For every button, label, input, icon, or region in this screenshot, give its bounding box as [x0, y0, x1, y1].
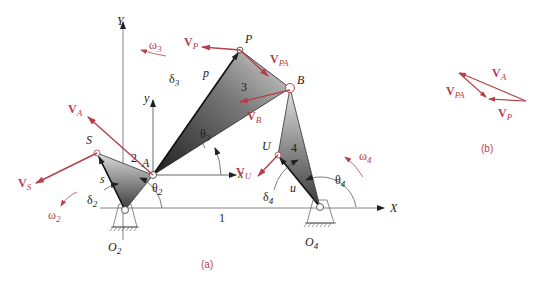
vu-label: VU: [236, 165, 252, 181]
caption-b: (b): [481, 143, 493, 154]
delta4-label: δ4: [263, 190, 274, 206]
x-axis-label: X: [389, 201, 398, 215]
length-s-label: s: [100, 172, 105, 186]
va-label: VA: [68, 102, 83, 118]
omega3-label: ω3: [149, 38, 162, 54]
y-axis-label: Y: [117, 14, 125, 28]
rocker-link-4: [278, 88, 320, 207]
omega2-label: ω2: [48, 208, 61, 224]
omega4-label: ω4: [359, 149, 372, 165]
label-p: P: [244, 32, 253, 46]
link-4-label: 4: [291, 141, 297, 155]
vb-label: VB: [247, 109, 262, 125]
label-o2: O2: [108, 240, 122, 256]
vp-arrow: [202, 47, 240, 50]
label-u: U: [262, 139, 272, 153]
polygon-vp-label: VP: [498, 106, 513, 122]
vs-arrow: [36, 153, 97, 183]
link-1-label: 1: [219, 211, 225, 225]
polygon-vp-arrow: [489, 99, 526, 101]
link-3-label: 3: [241, 80, 247, 94]
local-y-label: y: [143, 91, 150, 105]
delta3-label: δ3: [169, 72, 180, 88]
label-o4: O4: [305, 235, 319, 251]
label-b: B: [297, 73, 305, 87]
vs-label: VS: [18, 176, 32, 192]
label-s: S: [86, 133, 92, 147]
caption-a: (a): [201, 259, 213, 270]
omega2-arrow-icon: [61, 192, 77, 206]
length-u-label: u: [290, 181, 296, 195]
delta2-label: δ2: [87, 193, 98, 209]
length-p-label: p: [202, 66, 209, 80]
vp-label: VP: [184, 35, 199, 51]
ground-pivot-o4: [304, 200, 336, 227]
theta4-label: θ4: [335, 173, 346, 189]
theta2-label: θ2: [152, 181, 163, 197]
coupler-link-3: [153, 50, 290, 175]
fourbar-diagram: Y X y x A B P S U O2 O4 1 2 3 4 p s u θ3…: [0, 0, 545, 285]
vpa-label: VPA: [270, 52, 289, 68]
theta3-arc: [215, 148, 221, 175]
polygon-vpa-label: VPA: [446, 84, 465, 100]
link-2-label: 2: [131, 151, 137, 165]
vu-arrow: [258, 155, 278, 176]
polygon-va-label: VA: [492, 66, 507, 82]
label-a: A: [141, 156, 150, 170]
